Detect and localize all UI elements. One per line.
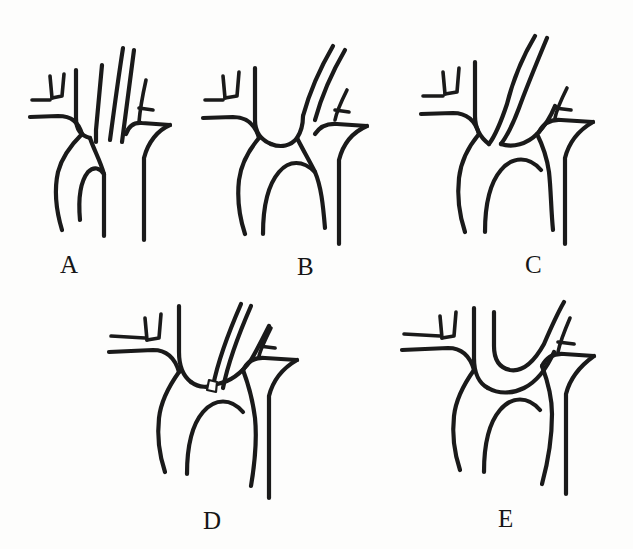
panel-e-diagram — [398, 288, 613, 503]
vessel-left-fork-b — [225, 72, 239, 98]
vessel-right-vertebral-a — [139, 80, 146, 122]
vessel-left-subclavian-e — [402, 348, 474, 370]
vessel-left-vertebral-stub-c — [443, 72, 445, 94]
vessel-left-horizontal-upper-e — [404, 334, 440, 336]
vessel-ascending-aorta-left-c — [458, 134, 479, 232]
panel-label-a: A — [60, 252, 79, 277]
vessel-loop-upper-e — [494, 302, 564, 370]
origin-marker-icon — [207, 380, 217, 392]
panel-a-diagram — [20, 30, 210, 245]
vessel-left-fork-c — [445, 68, 459, 94]
vessel-trunk-right-wall-a — [96, 65, 102, 142]
vessel-right-fork-branch-d — [259, 346, 275, 348]
vessel-trunk-left-wall-b — [255, 68, 271, 144]
vessel-trunk-left-wall-e — [474, 308, 488, 388]
vessel-ascending-aorta-left-e — [453, 370, 474, 470]
vessel-ascending-aorta-left-b — [238, 138, 259, 234]
vessel-descending-aorta-outer-a — [144, 125, 170, 240]
vessel-arch-inner-right-c — [537, 134, 553, 230]
panel-b-diagram — [197, 28, 397, 248]
vessel-right-vertebral-c — [555, 88, 567, 118]
vessel-left-subclavian-b — [203, 117, 259, 138]
vessel-right-vertebral-e — [558, 318, 570, 352]
vessel-left-vertebral-stub-a — [50, 76, 52, 98]
panel-c: C — [415, 22, 625, 248]
vessel-arch-inner-right-d — [243, 370, 256, 486]
panel-d: D — [105, 290, 315, 505]
vessel-right-fork-branch-e — [558, 342, 574, 344]
panel-b: B — [197, 28, 397, 248]
vessel-trunk-left-wall-a — [76, 70, 90, 138]
vessel-left-fork-e — [442, 312, 456, 338]
panel-a: A — [20, 30, 210, 245]
vessel-arch-inner-left-a — [79, 168, 104, 220]
vessel-left-subclavian-d — [109, 350, 179, 372]
vessel-descending-aorta-outer-e — [566, 356, 594, 494]
vessel-trunk-left-wall-d — [179, 306, 191, 382]
figure-root: A — [0, 0, 633, 549]
panel-label-c: C — [525, 252, 542, 277]
vessel-left-fork-a — [52, 74, 64, 98]
vessel-arch-inner-left-b — [263, 163, 315, 234]
vessel-carotid-line1-a — [110, 48, 123, 140]
vessel-descending-aorta-outer-c — [565, 122, 593, 244]
vessel-right-fork-branch-b — [335, 110, 349, 112]
vessel-descending-aorta-outer-d — [269, 360, 297, 498]
vessel-arch-inner-right-b — [297, 138, 325, 228]
vessel-arch-inner-right-a — [90, 138, 104, 236]
vessel-arch-inner-left-d — [187, 402, 243, 475]
vessel-ascending-aorta-left-d — [158, 372, 179, 472]
panel-c-diagram — [415, 22, 625, 248]
panel-d-diagram — [105, 290, 315, 505]
vessel-left-fork-d — [147, 314, 161, 340]
vessel-left-subclavian-c — [421, 113, 479, 134]
vessel-left-vertebral-stub-b — [223, 76, 225, 98]
vessel-right-fork-branch-a — [139, 108, 153, 110]
vessel-arch-inner-right-e — [542, 366, 552, 484]
vessel-descending-aorta-outer-b — [339, 126, 367, 244]
vessel-inner-branch-right-c — [501, 106, 555, 146]
panel-label-b: B — [297, 254, 314, 279]
vessel-right-vertebral-b — [335, 90, 347, 120]
panel-e: E — [398, 288, 613, 503]
vessel-right-fork-branch-c — [555, 108, 571, 110]
panel-label-e: E — [498, 506, 514, 531]
vessel-left-horizontal-upper-d — [111, 336, 145, 338]
vessel-arch-inner-left-c — [485, 160, 541, 233]
panel-label-d: D — [203, 508, 222, 533]
vessel-trunk-left-wall-c — [475, 62, 489, 144]
vessel-arch-inner-left-e — [484, 400, 540, 473]
